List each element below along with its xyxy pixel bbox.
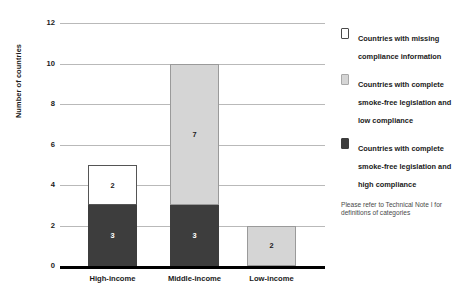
y-axis-tick-labels: 12 10 8 6 4 2 0 (29, 23, 55, 266)
legend-swatch-missing-info-icon (341, 28, 349, 39)
stacked-bar-chart: Number of countries 12 10 8 6 4 2 0 3 2 … (0, 0, 456, 299)
bar-segment-high-income-missing-info: 2 (88, 165, 137, 206)
plot-area: 3 2 3 7 2 (60, 23, 325, 266)
y-tick-10: 10 (31, 60, 55, 68)
legend-item-high-compliance: Countries with complete smoke-free legis… (341, 137, 453, 191)
chart-legend: Countries with missing compliance inform… (341, 27, 453, 218)
bar-segment-low-income-low-compliance: 2 (247, 226, 296, 267)
y-tick-2: 2 (31, 222, 55, 230)
legend-swatch-low-compliance-icon (341, 74, 349, 85)
y-tick-0: 0 (31, 262, 55, 270)
legend-item-low-compliance: Countries with complete smoke-free legis… (341, 73, 453, 127)
bar-segment-high-income-high-compliance: 3 (88, 205, 137, 266)
y-tick-8: 8 (31, 100, 55, 108)
legend-label-missing-info: Countries with missing compliance inform… (358, 34, 441, 61)
legend-footnote: Please refer to Technical Note I for def… (341, 201, 453, 218)
x-axis-tick-labels: High-income Middle-income Low-income (60, 274, 325, 288)
bar-segment-middle-income-high-compliance: 3 (170, 205, 219, 266)
x-axis-line (60, 266, 325, 269)
bar-segment-middle-income-low-compliance: 7 (170, 64, 219, 206)
legend-label-low-compliance: Countries with complete smoke-free legis… (358, 80, 451, 125)
legend-swatch-high-compliance-icon (341, 138, 349, 149)
x-tick-low-income: Low-income (227, 274, 317, 284)
x-tick-high-income: High-income (68, 274, 158, 284)
legend-item-missing-info: Countries with missing compliance inform… (341, 27, 453, 63)
y-tick-4: 4 (31, 181, 55, 189)
y-tick-6: 6 (31, 141, 55, 149)
legend-label-high-compliance: Countries with complete smoke-free legis… (358, 144, 451, 189)
y-axis-title: Number of countries (12, 31, 26, 131)
y-tick-12: 12 (31, 19, 55, 27)
gridline-12 (60, 23, 325, 24)
